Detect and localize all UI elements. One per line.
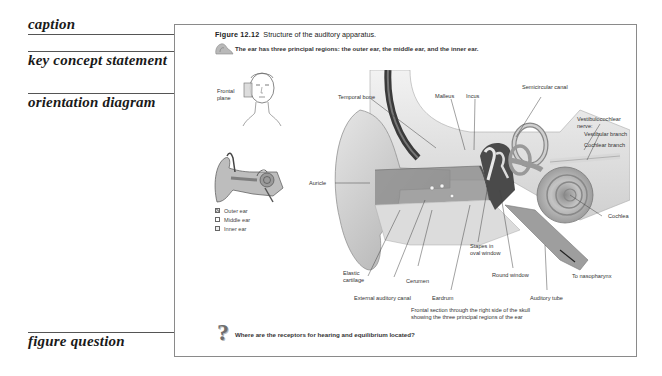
label-auricle: Auricle xyxy=(309,180,326,187)
label-elastic-line1: Elastic xyxy=(343,270,364,277)
label-cochlea: Cochlea xyxy=(608,213,629,220)
section-caption: Frontal section through the right side o… xyxy=(411,307,530,321)
label-temporal-bone: Temporal bone xyxy=(338,94,375,101)
label-external-auditory-canal: External auditory canal xyxy=(354,295,411,302)
label-cerumen: Cerumen xyxy=(406,278,429,285)
section-caption-line1: Frontal section through the right side o… xyxy=(411,307,530,314)
label-cochlear-branch: Cochlear branch xyxy=(584,142,625,149)
section-caption-line2: showing the three principal regions of t… xyxy=(411,314,530,321)
label-stapes: Stapes in oval window xyxy=(470,243,500,257)
label-round-window: Round window xyxy=(492,272,529,279)
label-vestibulocochlear-nerve: Vestibulocochlear nerve: xyxy=(577,116,625,130)
label-auditory-tube: Auditory tube xyxy=(530,295,563,302)
label-eardrum: Eardrum xyxy=(432,295,453,302)
label-stapes-line2: oval window xyxy=(470,250,500,257)
question-mark-icon: ? xyxy=(217,320,229,344)
label-malleus: Malleus xyxy=(435,93,454,100)
label-incus: Incus xyxy=(466,93,479,100)
label-vestibular-branch: Vestibular branch xyxy=(584,131,627,138)
label-stapes-line1: Stapes in xyxy=(470,243,500,250)
leader-lines xyxy=(0,0,662,376)
label-elastic-cartilage: Elastic cartilage xyxy=(343,270,364,284)
label-to-nasopharynx: To nasopharynx xyxy=(572,273,612,280)
figure-question: Where are the receptors for hearing and … xyxy=(235,331,415,338)
label-semicircular-canal: Semicircular canal xyxy=(522,84,568,91)
label-elastic-line2: cartilage xyxy=(343,277,364,284)
